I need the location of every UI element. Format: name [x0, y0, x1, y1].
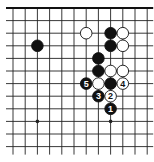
black-stone — [105, 27, 117, 39]
black-stone — [105, 40, 117, 52]
grid-lines — [6, 8, 153, 155]
white-stone — [117, 40, 129, 52]
black-stone — [93, 53, 105, 65]
black-stone — [93, 65, 105, 77]
black-stone — [32, 40, 44, 52]
star-point — [109, 120, 113, 124]
move-number-label: 2 — [108, 91, 113, 101]
black-stone-move-5: 5 — [80, 78, 92, 90]
move-number-label: 3 — [96, 91, 101, 101]
black-stone — [105, 78, 117, 90]
white-stone — [117, 27, 129, 39]
white-stone — [105, 65, 117, 77]
go-board-diagram: 54321 — [0, 0, 154, 162]
black-stone-move-1: 1 — [105, 103, 117, 115]
star-point — [36, 120, 40, 124]
white-stone — [80, 27, 92, 39]
move-number-label: 5 — [84, 79, 89, 89]
move-number-label: 1 — [108, 104, 113, 114]
move-number-label: 4 — [120, 79, 125, 89]
white-stone — [93, 78, 105, 90]
white-stone — [117, 65, 129, 77]
black-stone-move-3: 3 — [93, 90, 105, 102]
white-stone-move-4: 4 — [117, 78, 129, 90]
white-stone-move-2: 2 — [105, 90, 117, 102]
